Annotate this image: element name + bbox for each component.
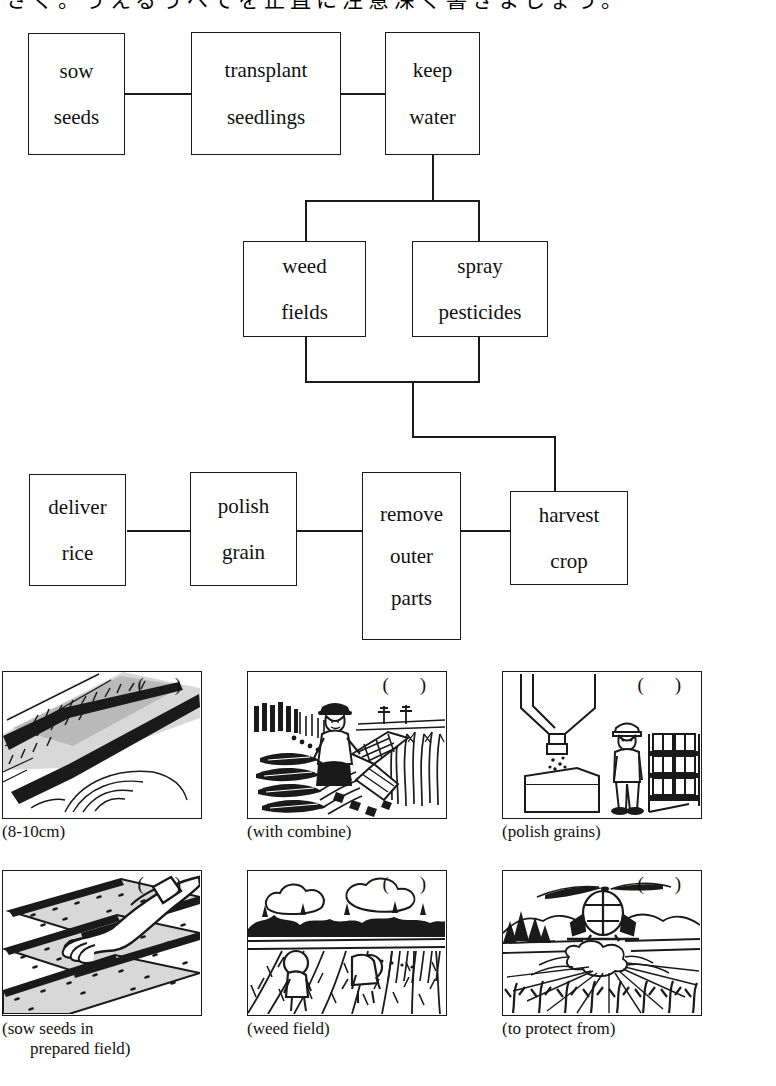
flow-node-line: fields: [281, 301, 328, 323]
flow-node-line: spray: [457, 255, 503, 277]
flow-node-remove-outer-parts[interactable]: remove outer parts: [362, 472, 461, 640]
connector-remove-to-harvest: [460, 530, 511, 532]
connector-polish-to-remove: [296, 530, 362, 532]
connector-merge-right: [412, 436, 555, 438]
panel-caption: (polish grains): [502, 822, 702, 842]
flow-node-spray-pesticides[interactable]: spray pesticides: [412, 241, 548, 337]
flow-node-line: rice: [62, 542, 93, 564]
panel-caption: (8-10cm): [2, 822, 202, 842]
connector-transplant-to-keep: [340, 93, 386, 95]
answer-blank[interactable]: ( ): [638, 874, 694, 893]
flow-node-line: polish: [218, 495, 269, 517]
flow-node-line: crop: [550, 550, 587, 572]
panel-image-frame: ( ): [2, 870, 202, 1016]
flow-node-deliver-rice[interactable]: deliver rice: [29, 474, 126, 586]
connector-branch-bar: [305, 200, 480, 202]
panel-harvest: ( ): [247, 671, 447, 842]
flow-node-line: weed: [282, 255, 326, 277]
panel-caption: (sow seeds inprepared field): [2, 1019, 202, 1058]
panel-caption: (with combine): [247, 822, 447, 842]
panel-image-frame: ( ): [2, 671, 202, 819]
answer-blank[interactable]: ( ): [138, 874, 194, 893]
flow-node-sow-seeds[interactable]: sow seeds: [28, 33, 125, 155]
flow-node-line: water: [409, 106, 456, 128]
panel-weed-field: ( ): [247, 870, 447, 1039]
panel-sow-seeds: ( ): [2, 870, 202, 1058]
panel-polish: ( ): [502, 671, 702, 842]
panel-image-frame: ( ): [247, 671, 447, 819]
connector-keep-down: [432, 154, 434, 202]
panel-caption-line2: prepared field): [30, 1039, 202, 1059]
panel-caption: (to protect from): [502, 1019, 702, 1039]
connector-branch-to-spray: [478, 200, 480, 242]
flow-node-transplant-seedlings[interactable]: transplant seedlings: [191, 32, 341, 155]
flow-node-line: harvest: [539, 504, 600, 526]
flow-node-line: parts: [391, 587, 432, 609]
panel-image-frame: ( ): [502, 870, 702, 1016]
connector-weed-down: [305, 336, 307, 382]
flow-node-line: transplant: [225, 59, 308, 81]
connector-sow-to-transplant: [124, 93, 192, 95]
flow-node-line: keep: [413, 59, 453, 81]
flow-node-line: outer: [390, 545, 433, 567]
flow-node-line: pesticides: [439, 301, 522, 323]
flow-node-line: grain: [222, 541, 265, 563]
flow-node-line: sow: [60, 60, 94, 82]
flow-node-line: deliver: [48, 496, 106, 518]
panel-spray: ( ): [502, 870, 702, 1039]
flowchart: sow seeds transplant seedlings keep wate…: [0, 0, 776, 655]
connector-spray-down: [478, 336, 480, 382]
picture-panel-grid: ( ): [0, 655, 776, 1086]
panel-image-frame: ( ): [247, 870, 447, 1016]
panel-image-frame: ( ): [502, 671, 702, 819]
flow-node-keep-water[interactable]: keep water: [385, 32, 480, 155]
answer-blank[interactable]: ( ): [138, 675, 194, 694]
flow-node-line: seedlings: [227, 106, 305, 128]
connector-branch-to-weed: [305, 200, 307, 242]
answer-blank[interactable]: ( ): [383, 675, 439, 694]
flow-node-polish-grain[interactable]: polish grain: [190, 472, 297, 586]
connector-merge-bar: [305, 381, 480, 383]
flow-node-line: seeds: [54, 106, 100, 128]
connector-merge-down: [412, 381, 414, 437]
answer-blank[interactable]: ( ): [638, 675, 694, 694]
panel-caption-line1: (sow seeds in: [2, 1019, 94, 1038]
flow-node-harvest-crop[interactable]: harvest crop: [510, 491, 628, 585]
answer-blank[interactable]: ( ): [383, 874, 439, 893]
panel-keep-water: ( ): [2, 671, 202, 842]
flow-node-weed-fields[interactable]: weed fields: [243, 241, 366, 337]
flow-node-line: remove: [380, 503, 443, 525]
connector-into-harvest: [554, 436, 556, 492]
panel-caption: (weed field): [247, 1019, 447, 1039]
connector-deliver-to-polish: [127, 530, 190, 532]
